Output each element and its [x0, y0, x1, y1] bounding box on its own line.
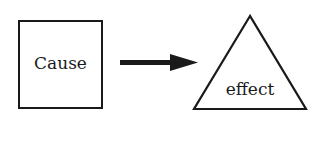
cause-label: Cause	[34, 53, 87, 73]
cause-node: Cause	[18, 20, 103, 109]
effect-label: effect	[190, 79, 310, 99]
cause-effect-diagram: Cause effect	[0, 0, 328, 145]
arrow-icon	[118, 52, 200, 74]
